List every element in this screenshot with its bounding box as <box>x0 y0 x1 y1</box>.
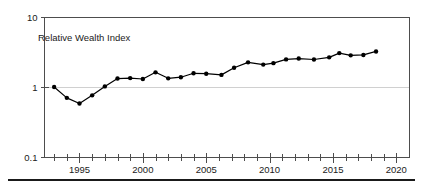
x-tick-label-2005: 2005 <box>196 164 217 175</box>
data-point <box>52 85 56 89</box>
data-point <box>65 96 69 100</box>
data-point <box>153 70 157 74</box>
data-point <box>246 60 250 64</box>
x-tick-label-2010: 2010 <box>259 164 280 175</box>
chart-figure: 1010.1199520002005201020152020 Relative … <box>0 0 423 189</box>
y-tick-label-10: 10 <box>27 12 38 23</box>
data-point <box>337 51 341 55</box>
data-point <box>297 56 301 60</box>
y-tick-label-1: 1 <box>32 82 37 93</box>
data-point <box>284 57 288 61</box>
x-tick-label-2020: 2020 <box>386 164 407 175</box>
data-point <box>312 57 316 61</box>
x-tick-label-2000: 2000 <box>132 164 153 175</box>
data-point <box>261 62 265 66</box>
data-point <box>103 84 107 88</box>
data-point <box>179 75 183 79</box>
data-point <box>374 49 378 53</box>
series-line-0 <box>54 51 376 103</box>
data-point <box>219 73 223 77</box>
data-point <box>90 93 94 97</box>
data-point <box>166 76 170 80</box>
relative-wealth-index-chart: 1010.1199520002005201020152020 Relative … <box>0 0 423 189</box>
data-point <box>191 71 195 75</box>
data-point <box>232 66 236 70</box>
data-point <box>361 53 365 57</box>
data-point <box>115 76 119 80</box>
data-point <box>77 101 81 105</box>
data-point <box>271 61 275 65</box>
data-point <box>128 76 132 80</box>
chart-title: Relative Wealth Index <box>38 32 130 43</box>
data-point <box>349 53 353 57</box>
y-tick-label-0.1: 0.1 <box>24 152 37 163</box>
data-series <box>52 49 378 106</box>
x-tick-label-2015: 2015 <box>322 164 343 175</box>
data-point <box>327 55 331 59</box>
data-point <box>141 77 145 81</box>
data-point <box>204 71 208 75</box>
x-tick-label-1995: 1995 <box>69 164 90 175</box>
